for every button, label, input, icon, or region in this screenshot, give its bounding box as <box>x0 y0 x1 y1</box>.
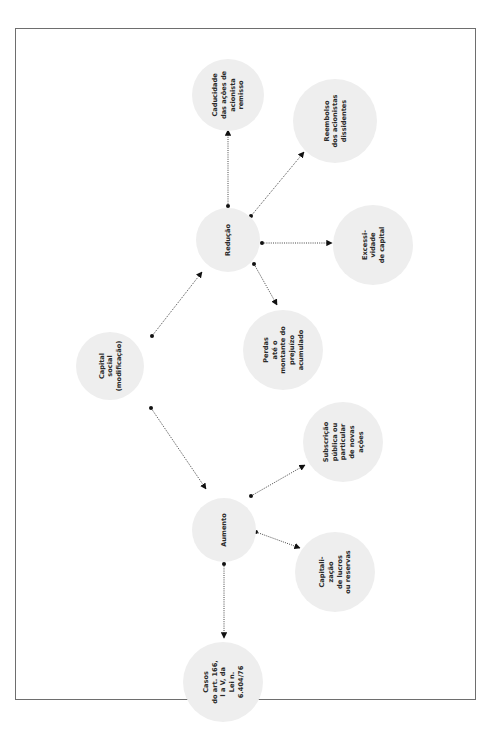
edge-origin-dot <box>260 241 264 245</box>
edge-origin-dot <box>222 562 226 566</box>
edge-aumento-to-capitalizacao <box>256 532 300 548</box>
edge-aumento-to-subscricao <box>251 465 305 496</box>
edge-origin-dot <box>149 406 153 410</box>
node-reducao: Redução <box>196 208 260 272</box>
edge-capital-to-aumento <box>151 408 206 489</box>
node-capitalizacao: Capitali-zaçãode lucrosou reservas <box>295 532 375 612</box>
node-label: Reembolsodos acionistasdissidentes <box>323 94 348 147</box>
nodes: Capitalsocial(modificação)ReduçãoAumento… <box>76 59 413 722</box>
edge-origin-dot <box>249 494 253 498</box>
edge-capital-to-reducao <box>152 272 202 336</box>
concept-map: Capitalsocial(modificação)ReduçãoAumento… <box>0 0 497 732</box>
node-reembolso: Reembolsodos acionistasdissidentes <box>293 79 377 163</box>
edge-reducao-to-reembolso <box>251 152 304 216</box>
node-excessividade: Excessi-vidadede capital <box>333 205 413 285</box>
edge-origin-dot <box>150 334 154 338</box>
node-subscricao: Subscriçãopública ouparticularde novasaç… <box>303 402 383 482</box>
node-label: Redução <box>224 224 232 256</box>
node-casos: Casosdo art. 166,I a V, daLei n.6.404/76 <box>183 642 263 722</box>
node-capital: Capitalsocial(modificação) <box>76 332 144 400</box>
edge-origin-dot <box>252 262 256 266</box>
node-perdas: Perdasaté omontante doprejuízoacumulado <box>243 310 323 390</box>
edge-origin-dot <box>226 204 230 208</box>
node-aumento: Aumento <box>192 498 256 562</box>
node-label: Capitali-zaçãode lucrosou reservas <box>318 550 352 594</box>
node-label: Aumento <box>220 513 228 547</box>
node-caducidade: Caducidadedas ações deacionistaremisso <box>192 59 264 131</box>
edge-reducao-to-perdas <box>254 264 277 305</box>
